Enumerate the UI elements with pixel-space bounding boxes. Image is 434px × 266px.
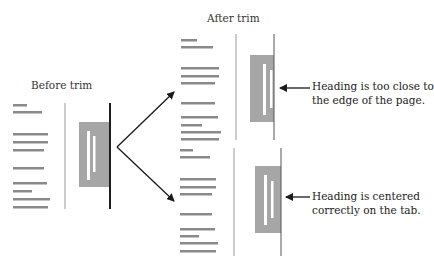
note-bottom-line-2: correctly on the tab. xyxy=(312,203,421,217)
note-bottom: Heading is centered correctly on the tab… xyxy=(312,189,421,217)
arrow-to-bottom-icon xyxy=(117,147,174,201)
note-top-line-1: Heading is too close to xyxy=(312,79,434,93)
after-bottom-tab xyxy=(255,166,281,233)
before-tab-mark-1 xyxy=(87,131,90,180)
before-tab-mark-2 xyxy=(93,136,96,172)
arrow-to-top-icon xyxy=(117,92,174,147)
after-bottom-tab-mark-1 xyxy=(264,175,267,225)
after-top-text-lines xyxy=(181,39,221,141)
note-bottom-line-1: Heading is centered xyxy=(312,189,421,203)
after-bottom-tab-mark-2 xyxy=(271,181,274,218)
note-top: Heading is too close to the edge of the … xyxy=(312,79,434,107)
after-bottom-text-lines xyxy=(180,149,218,253)
before-text-lines xyxy=(13,104,50,209)
after-top-tab-mark-2 xyxy=(270,70,273,108)
after-top-tab-mark-1 xyxy=(263,64,266,115)
note-top-line-2: the edge of the page. xyxy=(312,93,434,107)
